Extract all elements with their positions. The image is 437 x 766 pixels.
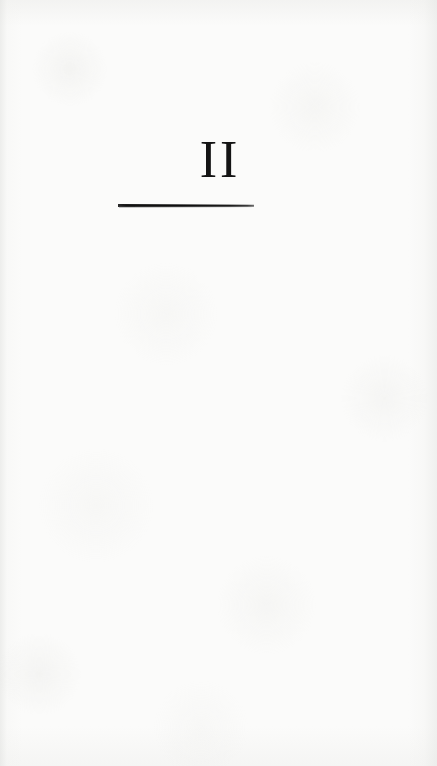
part-divider-block: II <box>0 134 437 186</box>
paper-texture-overlay <box>0 0 437 766</box>
book-page: II <box>0 0 437 766</box>
part-number: II <box>0 134 437 186</box>
divider-rule <box>118 204 254 209</box>
divider-rule-shadow <box>119 206 252 208</box>
